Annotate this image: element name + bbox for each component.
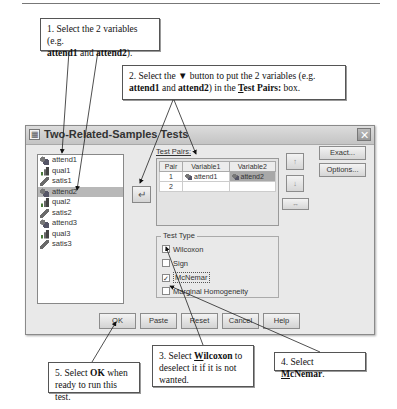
move-to-pairs-button[interactable]: ↵ [132,186,151,203]
callout-text: . [322,369,324,379]
variable-list[interactable]: attend1 qual1 satis1 attend2 qual2 satis… [37,154,124,304]
variable-item-satis2[interactable]: satis2 [38,208,123,219]
nominal-icon [232,173,239,180]
ordinal-icon [40,167,49,176]
checkbox-icon[interactable] [162,259,170,267]
checkbox-icon[interactable] [162,287,170,295]
test-pairs-table: Pair Variable1 Variable2 1 attend1 atten… [159,161,276,192]
variable-label: qual1 [52,166,70,175]
move-down-button[interactable]: ↓ [286,175,304,192]
variable-item-satis1[interactable]: satis1 [38,176,123,187]
move-up-button[interactable]: ↑ [286,153,304,170]
close-button[interactable]: ✕ [357,128,371,141]
callout-text: 2. Select the ▼ button to put the 2 vari… [129,71,315,81]
variable-label: satis1 [52,176,72,185]
callout-bold: attend2 [178,83,209,93]
pair-number: 1 [160,172,183,182]
variable-label: attend2 [52,187,77,196]
variable-item-satis3[interactable]: satis3 [38,239,123,250]
pair-variable1-cell[interactable]: attend1 [183,172,230,182]
callout-bold: est Pairs: [243,83,281,93]
variable-label: satis2 [52,208,72,217]
pair-variable1-cell[interactable] [183,182,230,192]
scale-icon [40,177,49,186]
test-pairs-label: Test Pairs: [156,147,191,156]
callout-bold: attend2 [96,48,127,58]
checkbox-marginal-homogeneity[interactable]: Marginal Homogeneity [162,287,248,297]
top-rule [22,3,380,4]
scale-icon [40,209,49,218]
variable-item-attend2[interactable]: attend2 [38,187,123,198]
callout-text: 1. Select the 2 variables (e.g. [47,24,137,46]
pair-number: 2 [160,182,183,192]
scale-icon [40,240,49,249]
dialog-title: Two-Related-Samples Tests [44,128,188,140]
callout-text: ) in the [209,83,238,93]
test-type-group: Test Type Wilcoxon Sign ✓McNemar Margina… [156,236,279,298]
nominal-icon [185,173,192,180]
variable-item-qual2[interactable]: qual2 [38,197,123,208]
test-pairs-box[interactable]: Pair Variable1 Variable2 1 attend1 atten… [156,158,279,226]
checkbox-icon[interactable] [162,245,170,253]
callout-text: 3. Select [159,351,194,361]
pair-variable2-cell[interactable]: attend2 [229,172,276,182]
two-related-samples-dialog: ▦ Two-Related-Samples Tests ✕ attend1 qu… [25,125,375,335]
cell-value: attend2 [241,173,264,180]
variable-label: attend1 [52,155,77,164]
swap-button[interactable]: ↔ [282,198,309,210]
title-bar[interactable]: ▦ Two-Related-Samples Tests ✕ [26,126,374,145]
app-icon: ▦ [29,129,40,140]
callout-text: box. [281,83,300,93]
variable-label: satis3 [52,239,72,248]
checkbox-wilcoxon[interactable]: Wilcoxon [162,245,203,255]
ordinal-icon [40,230,49,239]
callout-bold: OK [90,368,105,378]
col-header-variable2: Variable2 [229,162,276,172]
callout-text: 4. Select [281,357,314,367]
pair-variable2-cell[interactable] [229,182,276,192]
reset-button[interactable]: Reset [181,313,218,329]
callout-step-5: 5. Select OK when ready to run this test… [48,362,140,393]
col-header-pair: Pair [160,162,183,172]
callout-bold: attend1 [47,48,78,58]
test-type-title: Test Type [161,231,197,240]
checkbox-mcnemar[interactable]: ✓McNemar [162,273,210,283]
cancel-button[interactable]: Cancel [222,313,259,329]
callout-step-1: 1. Select the 2 variables (e.g. attend1 … [40,18,160,51]
checkbox-label: McNemar [173,272,210,283]
table-row[interactable]: 2 [160,182,276,192]
checkbox-label: Marginal Homogeneity [173,287,248,296]
exact-button[interactable]: Exact... [319,146,366,160]
callout-text: and [78,48,96,58]
variable-item-qual3[interactable]: qual3 [38,229,123,240]
paste-button[interactable]: Paste [140,313,177,329]
callout-bold: cNemar [290,369,322,379]
variable-label: qual2 [52,197,70,206]
callout-text: ). [127,48,133,58]
checkbox-sign[interactable]: Sign [162,259,188,269]
variable-label: attend3 [52,218,77,227]
options-button[interactable]: Options... [319,163,366,177]
cell-value: attend1 [194,173,217,180]
ok-button[interactable]: OK [99,313,136,329]
col-header-variable1: Variable1 [183,162,230,172]
variable-item-attend3[interactable]: attend3 [38,218,123,229]
variable-label: qual3 [52,229,70,238]
callout-step-4: 4. Select McNemar. [274,352,366,371]
callout-bold: ilcoxon [203,351,232,361]
callout-bold: attend1 [129,83,160,93]
help-button[interactable]: Help [263,313,300,329]
variable-item-qual1[interactable]: qual1 [38,166,123,177]
table-row[interactable]: 1 attend1 attend2 [160,172,276,182]
variable-item-attend1[interactable]: attend1 [38,155,123,166]
check-icon[interactable]: ✓ [162,274,170,282]
callout-step-3: 3. Select Wilcoxon to deselect it if it … [152,345,254,387]
callout-text: and [160,83,178,93]
callout-step-2: 2. Select the ▼ button to put the 2 vari… [122,65,346,100]
callout-text: 5. Select [55,368,90,378]
ordinal-icon [40,198,49,207]
nominal-icon [40,156,49,165]
nominal-icon [40,219,49,228]
callout-underline: M [281,369,290,379]
nominal-icon [40,188,49,197]
